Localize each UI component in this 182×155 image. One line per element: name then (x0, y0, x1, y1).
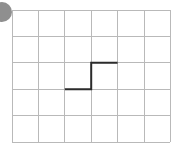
figure-root (0, 0, 182, 155)
grid-step-chart (0, 0, 182, 155)
